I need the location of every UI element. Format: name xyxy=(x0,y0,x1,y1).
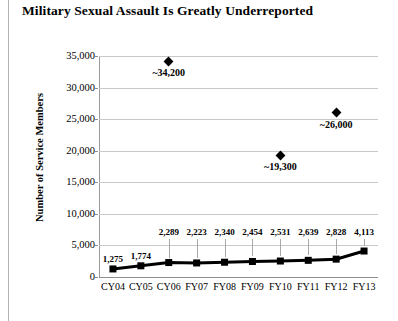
series-marker xyxy=(305,257,312,264)
page-edge-line xyxy=(8,0,9,321)
series-marker xyxy=(221,259,228,266)
gridline xyxy=(99,277,378,278)
annotation-label: ~26,000 xyxy=(301,120,371,130)
value-label-leader-line xyxy=(252,239,253,256)
value-label-leader-line xyxy=(197,239,198,258)
value-label-leader-line xyxy=(308,239,309,255)
series-marker xyxy=(137,262,144,269)
y-axis-tick-label: 15,000 xyxy=(43,177,95,188)
series-marker xyxy=(277,258,284,265)
y-axis-tick-label: 35,000 xyxy=(43,51,95,62)
plot-area: 1,2751,7742,2892,2232,3402,4542,5312,639… xyxy=(99,56,378,277)
y-axis-tick-label: 0 xyxy=(43,272,95,283)
value-label-leader-line xyxy=(336,239,337,254)
y-axis-tick-group: 35,00030,00025,00020,00015,00010,0005,00… xyxy=(40,56,95,277)
value-label-leader-line xyxy=(280,239,281,256)
y-axis-tick-mark xyxy=(95,88,98,89)
series-marker xyxy=(109,265,116,272)
annotation-label: ~34,200 xyxy=(134,68,204,78)
gridline xyxy=(99,151,378,152)
series-marker xyxy=(193,259,200,266)
chart-title: Military Sexual Assault Is Greatly Under… xyxy=(22,3,313,19)
y-axis-tick-mark xyxy=(95,277,98,278)
series-value-label: 4,113 xyxy=(341,228,387,237)
series-value-label: 1,774 xyxy=(118,252,164,261)
y-axis-tick-mark xyxy=(95,56,98,57)
y-axis-tick-mark xyxy=(95,151,98,152)
series-marker xyxy=(165,259,172,266)
y-axis-tick-mark xyxy=(95,245,98,246)
series-marker xyxy=(249,258,256,265)
value-label-leader-line xyxy=(169,239,170,257)
series-marker xyxy=(361,248,368,255)
gridline xyxy=(99,182,378,183)
series-marker xyxy=(333,256,340,263)
value-label-leader-line xyxy=(225,239,226,257)
y-axis-tick-label: 20,000 xyxy=(43,146,95,157)
y-axis-tick-label: 30,000 xyxy=(43,83,95,94)
annotation-label: ~19,300 xyxy=(245,162,315,172)
y-axis-tick-label: 25,000 xyxy=(43,114,95,125)
x-axis-tick-label: FY13 xyxy=(344,281,384,292)
y-axis-tick-mark xyxy=(95,182,98,183)
value-label-leader-line xyxy=(364,239,365,246)
gridline xyxy=(99,88,378,89)
y-axis-tick-mark xyxy=(95,119,98,120)
y-axis-tick-mark xyxy=(95,214,98,215)
gridline xyxy=(99,56,378,57)
x-axis-tick-group: CY04CY05CY06FY07FY08FY09FY10FY11FY12FY13 xyxy=(99,281,378,301)
y-axis-tick-label: 5,000 xyxy=(43,240,95,251)
gridline xyxy=(99,214,378,215)
y-axis-tick-label: 10,000 xyxy=(43,209,95,220)
